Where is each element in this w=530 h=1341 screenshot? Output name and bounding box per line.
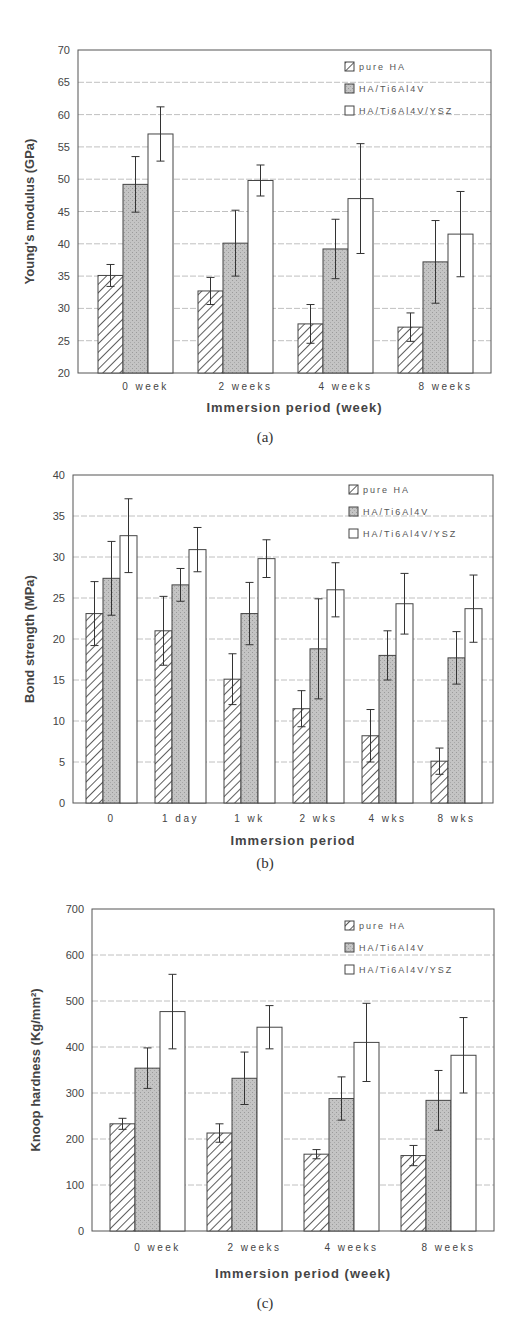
- figure-caption: (c): [257, 1295, 274, 1312]
- bar-white: [148, 134, 173, 373]
- y-tick-label: 35: [58, 270, 70, 282]
- y-tick-label: 60: [58, 109, 70, 121]
- bar-hatched: [304, 1154, 329, 1231]
- legend-label: HA/Ti6Al4V: [359, 84, 425, 94]
- bar-hatched: [110, 1124, 135, 1231]
- legend-label: HA/Ti6Al4V/YSZ: [359, 106, 453, 116]
- y-tick-label: 30: [58, 302, 70, 314]
- x-tick-label: 8 wks: [437, 813, 475, 824]
- y-tick-label: 40: [53, 469, 65, 481]
- legend-swatch: [345, 84, 354, 93]
- y-tick-label: 400: [66, 1041, 84, 1053]
- legend-swatch: [349, 529, 358, 538]
- y-tick-label: 100: [66, 1179, 84, 1191]
- x-tick-label: 2 wks: [299, 813, 337, 824]
- legend: pure HAHA/Ti6Al4VHA/Ti6Al4V/YSZ: [349, 485, 457, 539]
- x-axis-label: Immersion period: [230, 833, 355, 848]
- y-tick-label: 20: [53, 633, 65, 645]
- x-tick-label: 8 weeks: [421, 1242, 475, 1253]
- x-tick-label: 4 weeks: [318, 381, 372, 392]
- bars: [110, 974, 476, 1231]
- figure-caption: (a): [257, 429, 274, 446]
- x-tick-label: 1 wk: [234, 813, 265, 824]
- y-axis-ticks: 0100200300400500600700: [66, 903, 84, 1237]
- legend-label: pure HA: [363, 485, 410, 495]
- y-tick-label: 10: [53, 715, 65, 727]
- y-tick-label: 20: [58, 367, 70, 379]
- x-tick-label: 0 week: [134, 1242, 181, 1253]
- y-tick-label: 700: [66, 903, 84, 915]
- x-tick-label: 2 weeks: [218, 381, 272, 392]
- y-tick-label: 0: [78, 1225, 84, 1237]
- y-tick-label: 70: [58, 44, 70, 56]
- y-tick-label: 25: [58, 335, 70, 347]
- legend-swatch: [345, 106, 354, 115]
- legend-label: HA/Ti6Al4V: [363, 507, 429, 517]
- y-tick-label: 35: [53, 510, 65, 522]
- y-axis-label: Bond strength (MPa): [22, 575, 37, 703]
- bar-white: [327, 590, 344, 803]
- x-tick-label: 2 weeks: [227, 1242, 281, 1253]
- y-tick-label: 0: [59, 797, 65, 809]
- y-tick-label: 65: [58, 76, 70, 88]
- bar-white: [257, 1027, 282, 1231]
- x-tick-label: 0 week: [122, 381, 169, 392]
- y-tick-label: 30: [53, 551, 65, 563]
- legend-swatch: [345, 965, 354, 974]
- chart-panel-c: 0100200300400500600700Knoop hardness (Kg…: [0, 880, 530, 1341]
- bar-gray: [172, 585, 189, 803]
- x-tick-label: 8 weeks: [418, 381, 472, 392]
- y-axis-ticks: 2025303540455055606570: [58, 44, 70, 379]
- legend-label: HA/Ti6Al4V/YSZ: [359, 965, 453, 975]
- y-tick-label: 5: [59, 756, 65, 768]
- chart-panel-b: 0510152025303540Bond strength (MPa)01 da…: [0, 460, 530, 880]
- x-tick-label: 4 wks: [368, 813, 406, 824]
- x-tick-label: 0: [107, 813, 115, 824]
- bar-gray: [123, 184, 148, 373]
- legend-label: HA/Ti6Al4V: [359, 943, 425, 953]
- x-axis-label: Immersion period (week): [206, 400, 382, 415]
- bar-white: [248, 180, 273, 373]
- legend: pure HAHA/Ti6Al4VHA/Ti6Al4V/YSZ: [345, 921, 453, 975]
- x-axis-label: Immersion period (week): [215, 1266, 391, 1281]
- y-axis-label: Knoop hardness (Kg/mm²): [28, 988, 43, 1151]
- y-tick-label: 50: [58, 173, 70, 185]
- bond-strength-chart: 0510152025303540Bond strength (MPa)01 da…: [0, 460, 530, 880]
- y-tick-label: 55: [58, 141, 70, 153]
- x-tick-label: 1 day: [162, 813, 199, 824]
- y-tick-label: 300: [66, 1087, 84, 1099]
- legend-label: HA/Ti6Al4V/YSZ: [363, 529, 457, 539]
- y-tick-label: 45: [58, 206, 70, 218]
- legend-swatch: [349, 485, 358, 494]
- youngs-modulus-chart: 2025303540455055606570Young's modulus (G…: [0, 0, 530, 460]
- knoop-hardness-chart: 0100200300400500600700Knoop hardness (Kg…: [0, 880, 530, 1341]
- y-tick-label: 200: [66, 1133, 84, 1145]
- figure-caption: (b): [256, 855, 274, 872]
- y-tick-label: 600: [66, 949, 84, 961]
- legend-swatch: [345, 62, 354, 71]
- x-tick-label: 4 weeks: [324, 1242, 378, 1253]
- bar-hatched: [207, 1133, 232, 1231]
- bar-white: [189, 550, 206, 803]
- y-axis-label: Young's modulus (GPa): [22, 139, 37, 285]
- y-axis-ticks: 0510152025303540: [53, 469, 65, 809]
- y-tick-label: 15: [53, 674, 65, 686]
- legend-label: pure HA: [359, 921, 406, 931]
- bar-gray: [135, 1068, 160, 1231]
- bars: [86, 499, 482, 803]
- legend-swatch: [345, 921, 354, 930]
- legend: pure HAHA/Ti6Al4VHA/Ti6Al4V/YSZ: [345, 62, 453, 116]
- legend-label: pure HA: [359, 62, 406, 72]
- y-tick-label: 25: [53, 592, 65, 604]
- bar-hatched: [98, 275, 123, 373]
- legend-swatch: [349, 507, 358, 516]
- y-tick-label: 40: [58, 238, 70, 250]
- legend-swatch: [345, 943, 354, 952]
- chart-panel-a: 2025303540455055606570Young's modulus (G…: [0, 0, 530, 460]
- bar-white: [258, 559, 275, 803]
- bar-hatched: [401, 1156, 426, 1231]
- y-tick-label: 500: [66, 995, 84, 1007]
- bar-white: [120, 536, 137, 803]
